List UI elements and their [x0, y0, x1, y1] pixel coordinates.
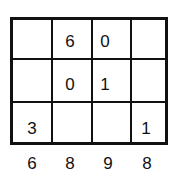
grid-row-divider — [13, 101, 165, 103]
grid-cell: 0 — [100, 33, 109, 50]
grid-column-divider — [130, 20, 132, 142]
grid-row-divider — [13, 58, 165, 60]
grid-cell: 3 — [27, 120, 36, 137]
column-sum: 9 — [103, 155, 112, 172]
grid-column-divider — [91, 20, 93, 142]
grid-cell: 6 — [65, 33, 74, 50]
column-sum: 8 — [65, 155, 74, 172]
column-sum: 8 — [142, 155, 151, 172]
grid-cell: 0 — [65, 76, 74, 93]
grid-column-divider — [51, 20, 53, 142]
grid-cell: 1 — [141, 120, 150, 137]
column-sum: 6 — [27, 155, 36, 172]
number-grid: 6 0 0 1 3 1 — [10, 17, 168, 145]
grid-cell: 1 — [100, 76, 109, 93]
